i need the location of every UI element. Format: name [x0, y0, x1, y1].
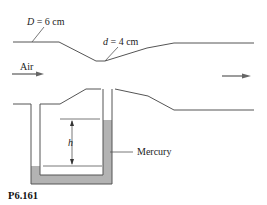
h-arrow-up-icon — [70, 120, 74, 126]
air-label: Air — [20, 61, 34, 72]
lower-duct-wall-right — [115, 89, 254, 110]
h-label: h — [68, 137, 73, 148]
air-out-arrow-icon — [242, 74, 251, 79]
mercury-label: Mercury — [137, 146, 171, 157]
throat-diameter-label: d = 4 cm — [103, 36, 139, 47]
mercury-fill — [31, 120, 112, 184]
D-leader-line — [32, 27, 44, 42]
air-in-arrow-icon — [36, 72, 44, 77]
venturi-manometer-diagram: D = 6 cm d = 4 cm Air h Mercury P6.161 — [0, 0, 267, 205]
h-arrow-down-icon — [70, 159, 74, 165]
figure-number: P6.161 — [8, 190, 38, 201]
lower-duct-wall-throat — [40, 89, 101, 104]
upstream-diameter-label: D = 6 cm — [26, 16, 65, 27]
